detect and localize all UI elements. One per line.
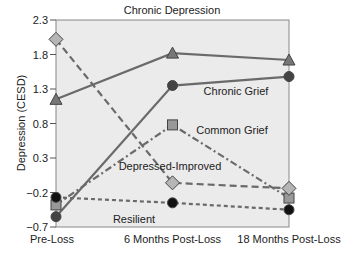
y-tick-label: −0.2: [26, 187, 48, 199]
circle-marker: [168, 198, 178, 208]
y-tick-label: 2.3: [33, 14, 48, 26]
circle-marker: [284, 72, 294, 82]
circle-marker: [168, 81, 178, 91]
y-tick-label: 1.3: [33, 83, 48, 95]
y-tick-label: −0.7: [26, 221, 48, 233]
circle-marker: [51, 192, 61, 202]
series-label: Chronic Grief: [204, 85, 270, 97]
circle-marker: [51, 212, 61, 222]
x-category-label: 18 Months Post-Loss: [237, 233, 341, 245]
circle-marker: [284, 205, 294, 215]
x-category-label: 6 Months Post-Loss: [124, 233, 222, 245]
y-tick-label: 1.8: [33, 49, 48, 61]
series-label: Resilient: [113, 213, 155, 225]
line-chart: 2.31.81.30.80.3−0.2−0.7 Pre-Loss6 Months…: [0, 0, 356, 255]
square-marker: [168, 120, 178, 130]
y-tick-label: 0.8: [33, 118, 48, 130]
x-axis: Pre-Loss6 Months Post-Loss18 Months Post…: [30, 233, 341, 245]
series-label: Common Grief: [196, 124, 268, 136]
y-axis-title: Depression (CESD): [15, 75, 27, 172]
series-label: Depressed-Improved: [119, 160, 222, 172]
y-tick-label: 0.3: [33, 152, 48, 164]
series-label: Chronic Depression: [124, 4, 221, 16]
x-category-label: Pre-Loss: [30, 233, 75, 245]
